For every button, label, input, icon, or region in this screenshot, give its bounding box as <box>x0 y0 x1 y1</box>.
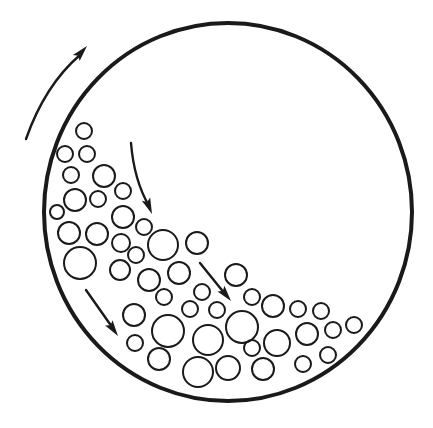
ball <box>186 232 208 254</box>
ball-mill-diagram <box>0 0 433 428</box>
ball <box>290 301 306 317</box>
ball <box>152 315 184 347</box>
ball <box>112 234 130 252</box>
ball <box>156 289 172 305</box>
ball <box>64 189 86 211</box>
ball <box>90 191 106 207</box>
ball <box>264 330 290 356</box>
ball <box>225 264 247 286</box>
ball <box>244 289 260 305</box>
ball <box>123 304 145 326</box>
ball <box>262 295 284 317</box>
ball <box>295 356 311 372</box>
cascade-arrow-icon <box>131 143 156 216</box>
ball <box>346 317 362 333</box>
flow-arrows-group <box>86 143 234 339</box>
ball <box>244 340 260 356</box>
ball <box>168 262 190 284</box>
ball <box>115 183 131 199</box>
ball <box>127 335 143 351</box>
ball <box>209 302 225 318</box>
ball <box>216 356 240 380</box>
ball <box>93 165 115 187</box>
ball <box>57 146 73 162</box>
ball <box>112 206 134 228</box>
ball <box>63 167 79 183</box>
ball <box>194 284 210 300</box>
ball <box>320 347 336 363</box>
ball <box>86 223 108 245</box>
ball <box>138 269 160 291</box>
arrowhead-icon <box>142 197 156 215</box>
ball <box>325 322 341 338</box>
grinding-media-group <box>50 123 362 387</box>
ball <box>313 303 329 319</box>
ball <box>148 230 178 260</box>
ball <box>79 146 95 162</box>
ball <box>110 260 130 280</box>
ball <box>58 222 80 244</box>
ball <box>50 205 64 219</box>
ball <box>183 357 213 387</box>
ball <box>136 219 152 235</box>
ball <box>128 247 144 263</box>
ball <box>226 311 258 343</box>
ball <box>193 325 223 355</box>
ball <box>64 247 96 279</box>
ball <box>252 358 274 380</box>
ball <box>182 301 198 317</box>
drum-shell <box>44 23 412 401</box>
ball <box>148 348 170 370</box>
ball <box>76 123 92 139</box>
ball <box>296 323 318 345</box>
cascade-arrow-icon <box>86 290 122 339</box>
arrowhead-icon <box>105 320 122 338</box>
